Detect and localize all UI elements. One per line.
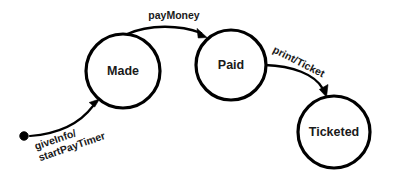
state-ticketed-label: Ticketed xyxy=(309,125,360,139)
transition-label-made-to-paid: payMoney xyxy=(148,9,200,21)
state-diagram-canvas: Made Paid Ticketed payMoney print/Ticket… xyxy=(0,0,403,180)
state-node-made[interactable]: Made xyxy=(86,34,160,108)
transition-made-to-paid-arrowhead xyxy=(197,28,207,38)
transition-label-paid-to-ticketed: print/Ticket xyxy=(271,43,327,80)
initial-state-dot xyxy=(20,132,28,140)
transition-made-to-paid-path xyxy=(126,27,201,35)
transition-label-paid-to-ticketed-group: print/Ticket xyxy=(271,43,327,80)
state-diagram-svg: Made Paid Ticketed payMoney print/Ticket… xyxy=(0,0,403,180)
state-node-ticketed[interactable]: Ticketed xyxy=(298,96,370,168)
state-node-paid[interactable]: Paid xyxy=(196,30,266,100)
state-paid-label: Paid xyxy=(218,58,244,72)
state-made-label: Made xyxy=(107,64,139,78)
